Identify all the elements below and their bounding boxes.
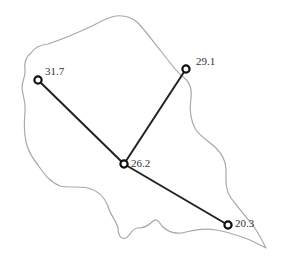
edge-29.1-to-26.2 — [124, 69, 186, 164]
nodes — [34, 65, 231, 228]
diagram-svg — [0, 0, 303, 274]
node-26.2[interactable] — [120, 160, 127, 167]
edge-31.7-to-26.2 — [38, 80, 124, 164]
node-label-29.1: 29.1 — [196, 56, 215, 67]
node-label-26.2: 26.2 — [131, 158, 150, 169]
edges — [38, 69, 228, 225]
node-label-31.7: 31.7 — [45, 66, 64, 77]
diagram-canvas: 31.7 29.1 26.2 20.3 — [0, 0, 303, 274]
node-20.3[interactable] — [224, 221, 231, 228]
node-29.1[interactable] — [182, 65, 189, 72]
node-label-20.3: 20.3 — [235, 218, 254, 229]
edge-26.2-to-20.3 — [124, 164, 228, 225]
node-31.7[interactable] — [34, 76, 41, 83]
